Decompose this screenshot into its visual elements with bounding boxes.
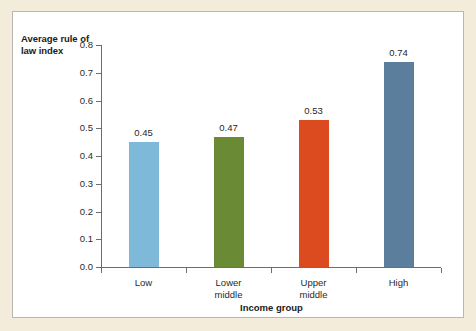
y-tick-label: 0.7	[65, 68, 93, 78]
y-tick-label: 0.3	[65, 179, 93, 189]
x-tick-mark	[101, 268, 102, 273]
y-tick-mark	[96, 101, 101, 102]
y-tick-label: 0.5	[65, 123, 93, 133]
y-tick-mark	[96, 212, 101, 213]
x-tick-mark	[271, 268, 272, 273]
bar	[299, 120, 329, 267]
y-tick-mark	[96, 45, 101, 46]
x-tick-mark	[441, 268, 442, 273]
x-category-label: Lower middle	[193, 277, 265, 300]
y-tick-mark	[96, 239, 101, 240]
x-tick-mark	[186, 268, 187, 273]
x-category-label: High	[363, 277, 435, 289]
chart-figure: Average rule of law index 0.00.10.20.30.…	[12, 11, 464, 318]
y-tick-label: 0.0	[65, 262, 93, 272]
y-tick-label: 0.1	[65, 234, 93, 244]
bar-value-label: 0.47	[204, 123, 254, 133]
y-tick-mark	[96, 184, 101, 185]
y-axis-line	[101, 45, 102, 268]
y-tick-mark	[96, 156, 101, 157]
x-category-label: Low	[108, 277, 180, 289]
x-tick-mark	[356, 268, 357, 273]
x-axis-title: Income group	[101, 302, 442, 313]
bar	[384, 62, 414, 267]
x-category-label: Upper middle	[278, 277, 350, 300]
bar-value-label: 0.53	[289, 106, 339, 116]
bar	[214, 137, 244, 267]
y-tick-label: 0.2	[65, 207, 93, 217]
bar-value-label: 0.45	[119, 128, 169, 138]
y-tick-label: 0.6	[65, 96, 93, 106]
plot-area: 0.00.10.20.30.40.50.60.70.8 0.45Low0.47L…	[101, 45, 441, 268]
y-tick-label: 0.4	[65, 151, 93, 161]
y-tick-mark	[96, 73, 101, 74]
y-tick-label: 0.8	[65, 40, 93, 50]
y-tick-mark	[96, 128, 101, 129]
bar-value-label: 0.74	[374, 48, 424, 58]
bar	[129, 142, 159, 267]
